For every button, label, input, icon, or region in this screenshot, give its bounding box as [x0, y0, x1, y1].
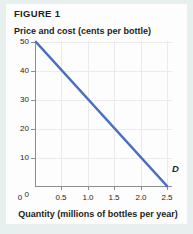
- demand-curve-label: D: [172, 163, 179, 174]
- gridline-horizontal: [35, 129, 172, 130]
- gridline-vertical: [88, 41, 89, 186]
- gridline-horizontal: [35, 71, 172, 72]
- y-axis-line: [35, 41, 36, 187]
- y-axis-tick: [31, 71, 36, 72]
- y-tick-label: 10: [7, 153, 29, 162]
- x-tick-label: 0.5: [48, 193, 74, 202]
- gridline-horizontal: [35, 158, 172, 159]
- gridline-horizontal: [35, 100, 172, 101]
- x-tick-label: 0: [7, 193, 33, 202]
- x-axis-label: Quantity (millions of bottles per year): [15, 209, 181, 219]
- x-axis-tick: [167, 186, 168, 190]
- x-axis-tick: [114, 186, 115, 190]
- gridline-vertical: [141, 41, 142, 186]
- x-axis-line: [35, 186, 172, 187]
- x-axis-tick: [141, 186, 142, 190]
- y-axis-tick: [31, 158, 36, 159]
- x-tick-label: 1.5: [101, 193, 127, 202]
- y-tick-label: 20: [7, 124, 29, 133]
- figure-panel: FIGURE 1 Price and cost (cents per bottl…: [0, 0, 193, 234]
- x-tick-label: 1.0: [75, 193, 101, 202]
- y-tick-label: 30: [7, 95, 29, 104]
- gridline-vertical: [61, 41, 62, 186]
- y-tick-label: 40: [7, 66, 29, 75]
- plot-area: 50 40 30 20 10 0 0 0.5 1.0 1.5 2.0 2.5 D: [0, 0, 193, 234]
- x-axis-tick: [88, 186, 89, 190]
- y-axis-tick: [31, 100, 36, 101]
- y-axis-tick: [31, 129, 36, 130]
- gridline-horizontal: [35, 42, 172, 43]
- gridline-vertical: [167, 41, 168, 186]
- x-tick-label: 2.0: [128, 193, 154, 202]
- y-axis-tick: [31, 42, 36, 43]
- x-tick-label: 2.5: [154, 193, 180, 202]
- x-axis-tick: [61, 186, 62, 190]
- y-tick-label: 50: [7, 37, 29, 46]
- gridline-vertical: [114, 41, 115, 186]
